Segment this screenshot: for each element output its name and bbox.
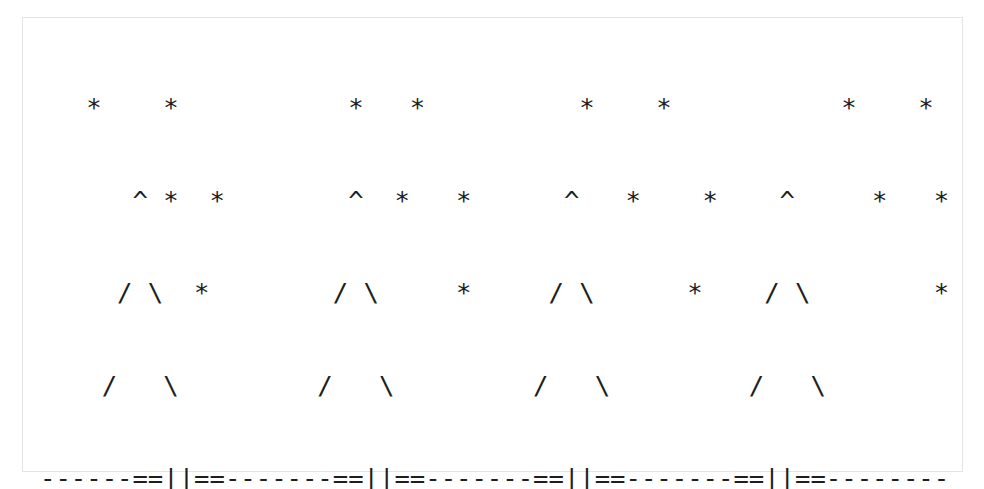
art-line-roof-peaks: ^ * * ^ * * ^ * * ^ * * bbox=[40, 185, 949, 216]
ascii-art-houses: * * * * * * * * ^ * * ^ * * ^ * * ^ * * … bbox=[40, 30, 949, 489]
art-line-stars-top: * * * * * * * * bbox=[40, 92, 949, 123]
art-line-roof-lower: / \ / \ / \ / \ bbox=[40, 370, 949, 401]
art-line-power-line-1: ------==||==-------==||==-------==||==--… bbox=[40, 463, 949, 489]
art-line-roof-upper: / \ * / \ * / \ * / \ * bbox=[40, 277, 949, 308]
